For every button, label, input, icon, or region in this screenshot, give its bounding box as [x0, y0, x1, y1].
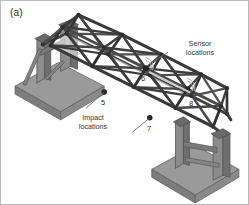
truss-bridge-illustration: [1, 1, 248, 204]
right-support: [152, 117, 239, 203]
node-label-5: 5: [101, 99, 105, 107]
figure-panel: (a): [0, 0, 249, 205]
node-label-8: 8: [189, 100, 193, 108]
sensor-locations-annotation: Sensor locations: [169, 40, 231, 58]
impact-locations-annotation: Impact locations: [63, 114, 123, 132]
node-label-6: 6: [141, 75, 145, 83]
node-label-7: 7: [147, 125, 151, 133]
